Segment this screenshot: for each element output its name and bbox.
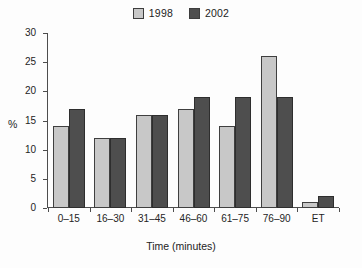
y-tick-mark: 10 <box>43 150 47 151</box>
bar-1998-61–75 <box>219 126 235 208</box>
x-tick-mark <box>339 208 340 212</box>
x-axis-title: Time (minutes) <box>0 240 362 252</box>
bar-group <box>173 33 215 208</box>
y-tick-mark: 30 <box>43 33 47 34</box>
y-tick-mark: 20 <box>43 91 47 92</box>
x-tick-mark <box>90 208 91 212</box>
legend-label-1998: 1998 <box>149 8 173 19</box>
bar-chart-figure: 1998 2002 % 051015202530 0–1516–3031–454… <box>0 0 362 268</box>
x-axis-label: ET <box>297 213 339 225</box>
x-axis-label: 61–75 <box>214 213 256 225</box>
x-tick-mark <box>256 208 257 212</box>
y-tick-label: 10 <box>25 145 36 155</box>
bar-group <box>48 33 90 208</box>
y-tick-mark: 5 <box>43 179 47 180</box>
y-tick-label: 25 <box>25 57 36 67</box>
bar-2002-61–75 <box>235 97 251 208</box>
bar-1998-0–15 <box>53 126 69 208</box>
bar-group <box>90 33 132 208</box>
x-axis-label: 76–90 <box>256 213 298 225</box>
y-tick-mark: 15 <box>43 121 47 122</box>
x-tick-mark <box>48 208 49 212</box>
x-tick-mark <box>131 208 132 212</box>
y-tick-label: 20 <box>25 86 36 96</box>
bar-2002-ET <box>318 196 334 208</box>
bar-group <box>297 33 339 208</box>
bar-1998-16–30 <box>94 138 110 208</box>
bar-2002-0–15 <box>69 109 85 208</box>
x-tick-mark <box>173 208 174 212</box>
bar-1998-46–60 <box>178 109 194 208</box>
x-tick-mark <box>297 208 298 212</box>
y-tick-label: 30 <box>25 28 36 38</box>
bar-group <box>214 33 256 208</box>
legend-item-1998: 1998 <box>133 8 173 19</box>
y-tick-label: 15 <box>25 116 36 126</box>
legend-item-2002: 2002 <box>189 8 229 19</box>
bar-2002-76–90 <box>277 97 293 208</box>
y-tick-mark: 0 <box>43 208 47 209</box>
y-axis-title: % <box>8 119 17 130</box>
x-axis-label: 31–45 <box>131 213 173 225</box>
legend-label-2002: 2002 <box>205 8 229 19</box>
bar-group <box>131 33 173 208</box>
bar-1998-ET <box>302 202 318 208</box>
y-tick-label: 0 <box>30 203 36 213</box>
x-axis-label: 16–30 <box>90 213 132 225</box>
bars-layer <box>48 33 339 208</box>
x-axis-label: 46–60 <box>173 213 215 225</box>
bar-group <box>256 33 298 208</box>
bar-2002-31–45 <box>152 115 168 208</box>
y-tick-mark: 25 <box>43 62 47 63</box>
chart-legend: 1998 2002 <box>0 8 362 19</box>
legend-swatch-1998 <box>133 8 144 19</box>
bar-1998-76–90 <box>261 56 277 208</box>
x-axis-category-labels: 0–1516–3031–4546–6061–7576–90ET <box>48 213 339 225</box>
legend-swatch-2002 <box>189 8 200 19</box>
y-tick-label: 5 <box>30 174 36 184</box>
x-tick-mark <box>214 208 215 212</box>
plot-area: 051015202530 <box>47 33 339 208</box>
x-axis-label: 0–15 <box>48 213 90 225</box>
bar-1998-31–45 <box>136 115 152 208</box>
bar-2002-16–30 <box>110 138 126 208</box>
bar-2002-46–60 <box>194 97 210 208</box>
